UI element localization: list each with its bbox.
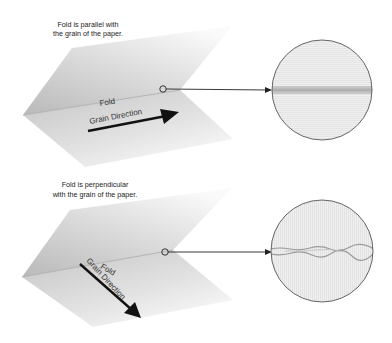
- caption-parallel-line1: Fold is parallel with: [57, 20, 118, 29]
- diagram-perpendicular: Fold is perpendicular with the grain of …: [22, 180, 374, 327]
- callout-arrow-icon: [168, 249, 272, 255]
- caption-perpendicular-line1: Fold is perpendicular: [62, 180, 129, 189]
- magnified-detail-cracked: [270, 200, 374, 302]
- paper-grain-fold-diagram: Fold is parallel with the grain of the p…: [0, 0, 392, 343]
- caption-parallel-line2: the grain of the paper.: [53, 29, 123, 38]
- diagram-parallel: Fold is parallel with the grain of the p…: [23, 20, 374, 167]
- magnified-detail-smooth: [270, 40, 374, 140]
- caption-perpendicular-line2: with the grain of the paper.: [52, 190, 138, 199]
